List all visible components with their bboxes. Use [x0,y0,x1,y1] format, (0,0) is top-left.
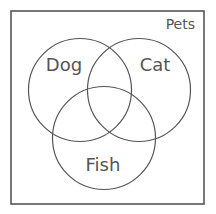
cat-set-label: Cat [140,54,171,75]
venn-diagram: Pets Dog Cat Fish [0,0,216,214]
universe-rectangle [11,11,204,204]
fish-set-label: Fish [86,154,121,175]
dog-set-label: Dog [46,54,82,75]
universe-label: Pets [166,16,195,32]
